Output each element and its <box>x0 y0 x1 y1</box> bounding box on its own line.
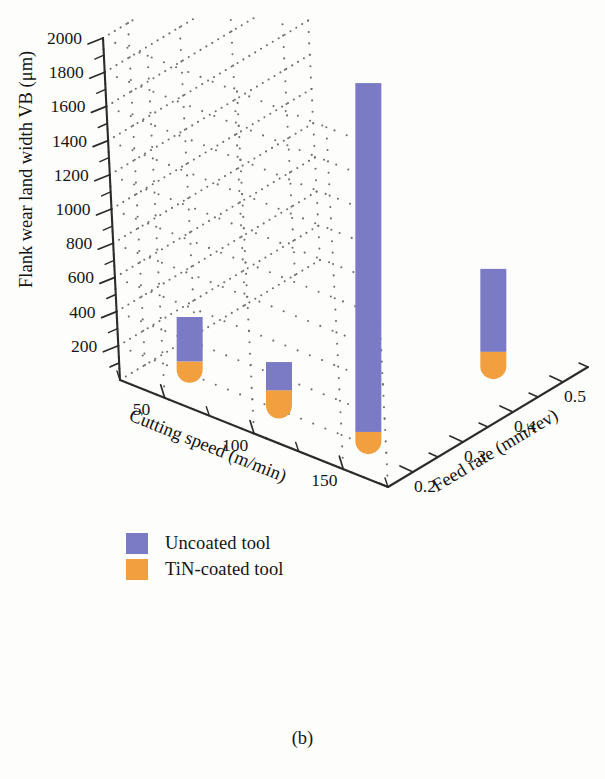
grid-dot <box>335 331 337 333</box>
grid-dot <box>272 287 274 289</box>
z-axis-minor-tick <box>479 423 488 427</box>
grid-dot <box>335 320 337 322</box>
grid-dot <box>238 190 240 192</box>
grid-dot <box>142 354 144 356</box>
grid-dot <box>133 300 135 302</box>
grid-dot <box>188 302 190 304</box>
grid-dot <box>122 201 124 203</box>
grid-dot <box>257 266 259 268</box>
grid-dot <box>205 151 207 153</box>
grid-dot <box>309 354 311 356</box>
grid-dot <box>268 219 270 221</box>
grid-dot <box>206 213 208 215</box>
grid-dot <box>254 298 256 300</box>
grid-dot <box>119 144 121 146</box>
grid-dot <box>149 257 151 259</box>
grid-dot <box>253 157 255 159</box>
grid-dot <box>140 86 142 88</box>
grid-dot <box>217 285 219 287</box>
grid-dot <box>339 400 341 402</box>
grid-dot <box>284 344 286 346</box>
bar-segment-tin-coated <box>480 352 506 379</box>
grid-dot <box>168 138 170 140</box>
grid-dot <box>219 319 221 321</box>
grid-dot <box>313 134 315 136</box>
grid-dot <box>160 354 162 356</box>
grid-dot <box>342 300 344 302</box>
grid-dot <box>210 281 212 283</box>
grid-dot <box>207 80 209 82</box>
grid-dot <box>224 175 226 177</box>
grid-dot <box>114 42 116 44</box>
grid-dot <box>212 182 214 184</box>
grid-dot <box>312 423 314 425</box>
grid-dot <box>129 68 131 70</box>
grid-dot <box>258 260 260 262</box>
grid-dot <box>212 81 214 83</box>
grid-dot <box>277 143 279 145</box>
grid-dot <box>233 87 235 89</box>
grid-dot <box>154 111 156 113</box>
grid-dot <box>236 325 238 327</box>
grid-dot <box>181 166 183 168</box>
grid-dot <box>227 243 229 245</box>
grid-dot <box>347 403 349 405</box>
bar-group <box>177 83 507 454</box>
grid-dot <box>182 95 184 97</box>
grid-dot <box>328 172 330 174</box>
grid-dot <box>178 97 180 99</box>
y-axis-minor-tick <box>107 295 116 299</box>
x-axis-title: Cutting speed (m/min) <box>126 405 289 487</box>
grid-dot <box>330 217 332 219</box>
grid-dot <box>193 311 195 313</box>
grid-dot <box>238 96 240 98</box>
grid-dot <box>305 232 307 234</box>
grid-dot <box>342 457 344 459</box>
grid-dot <box>250 364 252 366</box>
grid-dot <box>188 209 190 211</box>
grid-dot <box>172 101 174 103</box>
grid-dot <box>174 29 176 31</box>
grid-dot <box>182 306 184 308</box>
grid-dot <box>168 32 170 34</box>
grid-dot <box>208 247 210 249</box>
grid-dot <box>238 125 240 127</box>
grid-dot <box>162 374 164 376</box>
grid-dot <box>223 35 225 37</box>
grid-dot <box>248 341 250 343</box>
grid-dot <box>335 398 337 400</box>
grid-dot <box>166 364 168 366</box>
grid-dot <box>301 23 303 25</box>
grid-dot <box>260 335 262 337</box>
grid-dot <box>184 237 186 239</box>
grid-dot <box>159 306 161 308</box>
grid-dot <box>248 330 250 332</box>
grid-dot <box>346 134 348 136</box>
grid-dot <box>127 303 129 305</box>
grid-dot <box>150 291 152 293</box>
legend-swatch-tin-coated <box>126 559 148 580</box>
grid-dot <box>239 159 241 161</box>
grid-dot <box>196 242 198 244</box>
y-axis-tick <box>93 141 108 147</box>
legend-swatch-uncoated <box>126 533 148 554</box>
grid-dot <box>252 421 254 423</box>
grid-dot <box>177 100 179 102</box>
grid-dot <box>205 292 207 294</box>
grid-dot <box>300 418 302 420</box>
grid-dot <box>247 318 249 320</box>
grid-dot <box>310 388 312 390</box>
grid-dot <box>221 247 223 249</box>
grid-dot <box>237 113 239 115</box>
y-axis-minor-tick <box>95 55 104 59</box>
grid-dot <box>205 178 207 180</box>
grid-dot <box>248 301 250 303</box>
grid-dot <box>194 208 196 210</box>
grid-dot <box>189 90 191 92</box>
grid-dot <box>176 309 178 311</box>
grid-dot <box>215 384 217 386</box>
grid-dot <box>241 236 243 238</box>
grid-dot <box>187 197 189 199</box>
grid-dot <box>115 170 117 172</box>
grid-dot <box>172 347 174 349</box>
